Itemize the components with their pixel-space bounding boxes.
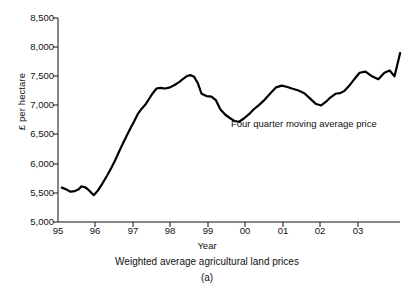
- x-tick-label: 00: [233, 225, 257, 236]
- x-tick-label: 98: [158, 225, 182, 236]
- figure-caption: Weighted average agricultural land price…: [0, 256, 414, 267]
- x-tick-label: 99: [196, 225, 220, 236]
- chart-figure: £ per hectare 8,500 8,000 7,500 7,000 6,…: [0, 0, 414, 297]
- y-axis-ticks: [53, 18, 58, 222]
- x-tick-label: 97: [121, 225, 145, 236]
- x-tick-label: 95: [46, 225, 70, 236]
- x-tick-label: 01: [271, 225, 295, 236]
- x-tick-label: 02: [308, 225, 332, 236]
- figure-sub-caption: (a): [0, 272, 414, 283]
- x-tick-label: 96: [83, 225, 107, 236]
- x-axis-title: Year: [0, 240, 414, 251]
- x-tick-label: 03: [346, 225, 370, 236]
- series-annotation-label: Four quarter moving average price: [231, 118, 377, 129]
- plot-area: [0, 0, 414, 297]
- x-tick-labels: 95 96 97 98 99 00 01 02 03: [0, 225, 414, 241]
